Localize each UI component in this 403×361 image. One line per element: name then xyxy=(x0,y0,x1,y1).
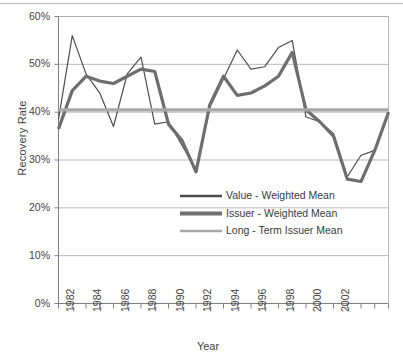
y-tick-label-10: 10% xyxy=(4,249,50,261)
y-tick-label-60: 60% xyxy=(4,10,50,22)
legend-line-swatches xyxy=(180,196,222,231)
series-line-1 xyxy=(59,52,389,181)
x-tick-label-1996: 1996 xyxy=(256,288,268,311)
recovery-rate-chart: 0%10%20%30%40%50%60% 1982198419861988199… xyxy=(0,0,403,361)
x-tick-label-1990: 1990 xyxy=(174,288,186,311)
legend-label-0: Value - Weighted Mean xyxy=(226,189,335,201)
x-tick-label-1998: 1998 xyxy=(284,288,296,311)
y-tick-label-50: 50% xyxy=(4,57,50,69)
x-tick-label-1992: 1992 xyxy=(201,288,213,311)
legend-label-1: Issuer - Weighted Mean xyxy=(226,207,337,219)
grid-lines xyxy=(59,17,389,256)
x-tick-label-1988: 1988 xyxy=(146,288,158,311)
y-tick-label-20: 20% xyxy=(4,201,50,213)
y-tick-label-0: 0% xyxy=(4,297,50,309)
x-tick-label-2002: 2002 xyxy=(339,288,351,311)
x-tick-label-2000: 2000 xyxy=(311,288,323,311)
x-axis-title: Year xyxy=(168,340,248,352)
x-tick-label-1984: 1984 xyxy=(91,288,103,311)
x-tick-label-1986: 1986 xyxy=(119,288,131,311)
legend-label-2: Long - Term Issuer Mean xyxy=(226,224,343,236)
x-tick-label-1982: 1982 xyxy=(64,288,76,311)
axis-tick-marks xyxy=(55,17,389,309)
x-tick-label-1994: 1994 xyxy=(229,288,241,311)
y-axis-title: Recovery Rate xyxy=(16,78,28,198)
